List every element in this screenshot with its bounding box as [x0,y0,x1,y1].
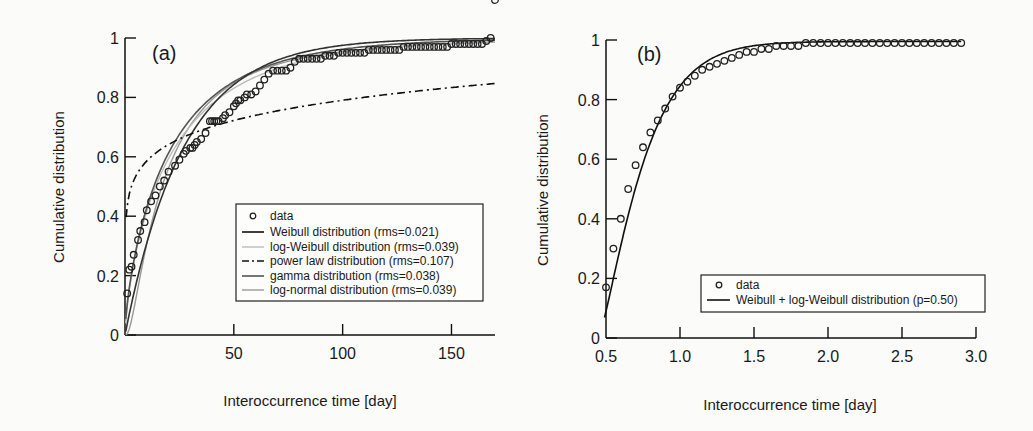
x-tick-label: 150 [438,345,465,362]
x-tick-label: 0.5 [595,348,617,365]
data-point [610,245,617,252]
data-point [736,52,743,59]
x-tick-label: 2.5 [891,348,913,365]
x-tick-label: 1.5 [743,348,765,365]
data-point [795,43,802,50]
data-point [492,0,499,3]
data-point [943,40,950,47]
legend-entry-weibull: Weibull distribution (rms=0.021) [270,225,439,239]
data-point [692,72,699,79]
data-point [640,144,647,151]
data-point [758,46,765,53]
data-point [788,43,795,50]
legend-entry-data: data [270,209,294,223]
data-point [751,49,758,56]
data-point [914,40,921,47]
data-point [869,40,876,47]
panel-b-x-axis-label: Interoccurrence time [day] [703,396,876,413]
data-point [817,40,824,47]
data-point [891,40,898,47]
panel-b-axes: 00.20.40.60.810.51.01.52.02.53.0 [578,32,987,365]
y-tick-label: 0.4 [578,211,600,228]
data-point [706,64,713,71]
y-tick-label: 0.2 [578,270,600,287]
panel-a-label: (a) [152,42,176,64]
data-point [729,55,736,62]
data-point [766,46,773,53]
data-point [958,40,965,47]
data-point [899,40,906,47]
data-point [832,40,839,47]
data-point [152,192,159,199]
data-point [647,129,654,136]
data-point [862,40,869,47]
y-tick-label: 0.2 [97,268,119,285]
data-point [632,162,639,169]
y-tick-label: 0.6 [97,149,119,166]
data-point [936,40,943,47]
y-tick-label: 0.8 [97,89,119,106]
data-point [625,186,632,193]
y-tick-label: 1 [591,32,600,49]
x-tick-label: 2.0 [817,348,839,365]
legend-entry-log-weibull: log-Weibull distribution (rms=0.039) [270,240,459,254]
data-point [684,78,691,85]
data-point [261,76,268,83]
panel-a-chart: 00.20.40.60.8150100150 (a) Interoccurren… [50,0,498,409]
data-point [714,61,721,68]
panel-a-x-axis-label: Interoccurrence time [day] [223,392,396,409]
y-tick-label: 1 [110,30,119,47]
panel-b-chart: 00.20.40.60.810.51.01.52.02.53.0 (b) Int… [534,32,987,413]
data-point [906,40,913,47]
legend-entry-power-law: power law distribution (rms=0.107) [270,254,454,268]
data-point [699,67,706,74]
figure: 00.20.40.60.8150100150 (a) Interoccurren… [0,0,1033,431]
legend-entry-weibull-log-weibull: Weibull + log-Weibull distribution (p=0.… [736,293,958,307]
x-tick-label: 100 [329,345,356,362]
legend-entry-log-normal: log-normal distribution (rms=0.039) [270,283,456,297]
y-tick-label: 0.6 [578,151,600,168]
data-point [618,216,625,223]
y-tick-label: 0.8 [578,92,600,109]
data-point [884,40,891,47]
x-tick-label: 1.0 [669,348,691,365]
data-point [921,40,928,47]
panel-b-label: (b) [637,43,661,65]
panel-a-axes: 00.20.40.60.8150100150 [97,30,495,362]
data-point [810,40,817,47]
y-tick-label: 0 [110,327,119,344]
data-point [743,49,750,56]
panel-b-y-axis-label: Cumulative distribution [534,114,551,266]
y-tick-label: 0.4 [97,208,119,225]
panel-b-data-points [603,40,965,291]
panel-b-legend: data Weibull + log-Weibull distribution … [701,275,985,312]
data-point [951,40,958,47]
data-point [721,58,728,65]
data-point [202,130,209,137]
data-point [257,82,264,89]
panel-a-y-axis-label: Cumulative distribution [50,111,67,263]
legend-entry-data: data [736,278,760,292]
data-point [825,40,832,47]
data-point [840,40,847,47]
data-point [877,40,884,47]
x-tick-label: 3.0 [965,348,987,365]
y-tick-label: 0 [591,330,600,347]
panel-a-legend: data Weibull distribution (rms=0.021) lo… [236,204,483,301]
data-point [847,40,854,47]
data-point [854,40,861,47]
legend-entry-gamma: gamma distribution (rms=0.038) [270,269,440,283]
x-tick-label: 50 [225,345,243,362]
data-point [928,40,935,47]
